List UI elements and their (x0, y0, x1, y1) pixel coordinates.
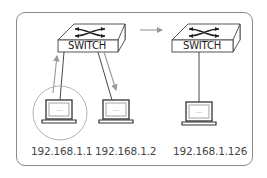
switch-2-label: SWITCH (183, 40, 221, 51)
svg-text:····: ···· (113, 107, 120, 113)
host-3-ip: 192.168.1.126 (173, 145, 247, 157)
link-host1-switch1 (60, 52, 64, 100)
laptop-3-icon: ···· (182, 102, 216, 125)
svg-text:····: ···· (56, 107, 63, 113)
arrow-up-icon (53, 56, 57, 93)
link-host2-switch1 (98, 52, 112, 100)
host-1-ip: 192.168.1.1 (31, 145, 92, 157)
switch-1-label: SWITCH (68, 40, 106, 51)
laptop-1-icon: ···· (42, 100, 76, 123)
svg-text:····: ···· (196, 109, 203, 115)
arrow-down-icon (104, 52, 116, 90)
laptop-2-icon: ···· (99, 100, 133, 123)
host-2-ip: 192.168.1.2 (95, 145, 156, 157)
